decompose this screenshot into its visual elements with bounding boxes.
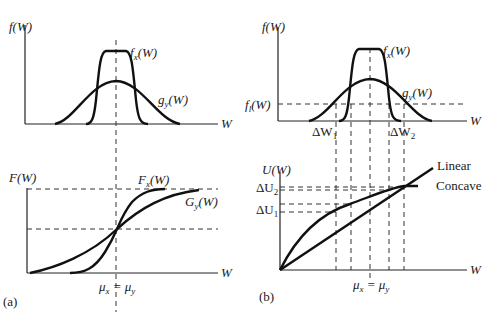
ylabel: U(W)	[262, 162, 291, 177]
panel-b-label: (b)	[259, 289, 274, 304]
panel-a-pdf-plot: f(W) W fx(W) gy(W)	[9, 19, 233, 312]
threshold-label: fl(W)	[245, 97, 271, 114]
ylabel: f(W)	[262, 19, 285, 34]
dw1-label: ΔW1	[312, 124, 337, 141]
gy-label: gy(W)	[402, 85, 432, 102]
du2-label: ΔU2	[256, 180, 278, 197]
du1-label: ΔU1	[256, 202, 278, 219]
Fx-label: Fx(W)	[137, 172, 169, 189]
ylabel: F(W)	[8, 170, 36, 185]
xlabel: W	[221, 265, 233, 280]
linear-curve	[280, 168, 433, 270]
panel-a-label: (a)	[3, 294, 17, 309]
concave-label: Concave	[436, 178, 482, 193]
linear-label: Linear	[437, 158, 472, 173]
dw2-label: ΔW2	[390, 124, 415, 141]
panel-a-cdf-plot: F(W) W Fx(W) Gy(W) μx = μy (a)	[3, 170, 233, 309]
xlabel: W	[470, 113, 482, 128]
mean-label: μx = μy	[352, 277, 389, 294]
xlabel: W	[221, 116, 233, 131]
panel-b-utility-plot: U(W) W Linear Concave ΔU2 ΔU1 μx = μy (b…	[256, 158, 482, 304]
gy-label: gy(W)	[158, 92, 188, 109]
xlabel: W	[470, 262, 482, 277]
Gy-curve	[30, 190, 199, 273]
fx-curve	[86, 51, 148, 124]
Gy-label: Gy(W)	[185, 194, 218, 211]
mean-label: μx = μy	[98, 279, 135, 296]
ylabel: f(W)	[9, 19, 32, 34]
fx-label: fx(W)	[383, 43, 410, 60]
fx-label: fx(W)	[130, 45, 157, 62]
risk-distribution-diagram: f(W) W fx(W) gy(W) F(W) W Fx(W) Gy(W) μx…	[0, 0, 491, 312]
Fx-curve	[70, 189, 165, 273]
